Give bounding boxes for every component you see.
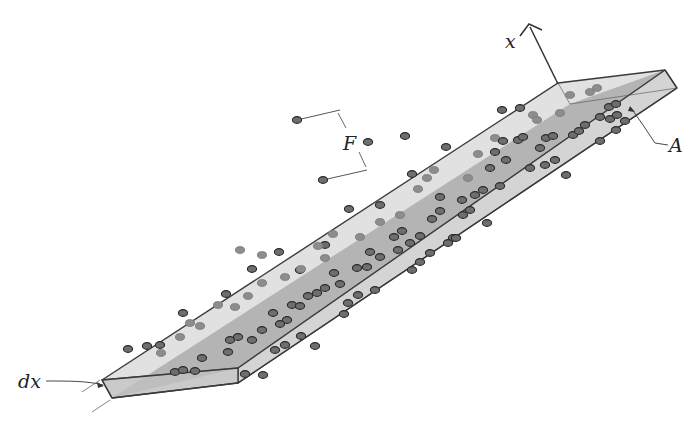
thickness-label: dx <box>18 370 41 392</box>
x-axis-label: x <box>505 30 516 52</box>
slab <box>102 70 677 398</box>
thickness-leader <box>46 380 110 412</box>
slab-inner-plane <box>112 70 665 398</box>
slab-diagram: x A dx F <box>0 0 699 433</box>
flux-label: F <box>342 132 357 154</box>
area-label: A <box>667 134 683 156</box>
x-axis-arrow <box>520 24 558 84</box>
area-leader <box>628 106 668 145</box>
